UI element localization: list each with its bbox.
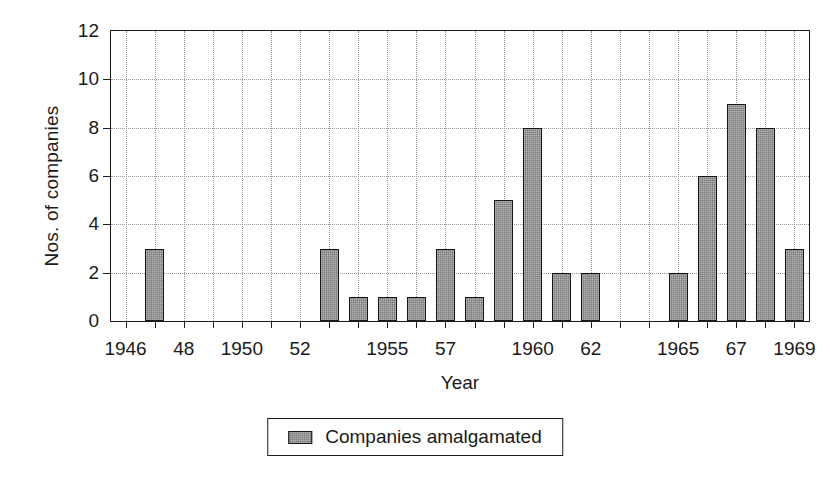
x-tick-label-1946: 1946 xyxy=(104,338,146,360)
x-tick-1966 xyxy=(707,321,708,328)
y-tick-label-12: 12 xyxy=(78,20,99,42)
gridline-x-1963 xyxy=(620,31,621,321)
bar-1958 xyxy=(465,297,484,321)
x-tick-1955 xyxy=(387,321,388,328)
bar-1959 xyxy=(494,200,513,321)
x-tick-label-1957: 57 xyxy=(435,338,456,360)
x-tick-1948 xyxy=(184,321,185,328)
x-tick-1962 xyxy=(591,321,592,328)
y-tick-6 xyxy=(103,176,111,177)
x-tick-1964 xyxy=(649,321,650,328)
gridline-x-1948 xyxy=(184,31,185,321)
y-tick-10 xyxy=(103,79,111,80)
x-tick-label-1952: 52 xyxy=(289,338,310,360)
legend-label-companies-amalgamated: Companies amalgamated xyxy=(325,426,542,448)
x-tick-1952 xyxy=(300,321,301,328)
y-tick-label-8: 8 xyxy=(88,117,99,139)
y-tick-label-0: 0 xyxy=(88,310,99,332)
bar-1953 xyxy=(320,249,339,322)
x-tick-1953 xyxy=(329,321,330,328)
gridline-x-1949 xyxy=(213,31,214,321)
x-tick-1967 xyxy=(736,321,737,328)
gridline-x-1955 xyxy=(387,31,388,321)
x-tick-label-1967: 67 xyxy=(726,338,747,360)
x-tick-1961 xyxy=(562,321,563,328)
x-tick-1947 xyxy=(155,321,156,328)
bar-1947 xyxy=(145,249,164,322)
x-tick-1954 xyxy=(358,321,359,328)
x-tick-1949 xyxy=(213,321,214,328)
x-tick-1951 xyxy=(271,321,272,328)
y-tick-label-6: 6 xyxy=(88,165,99,187)
bar-1968 xyxy=(756,128,775,321)
legend-swatch-companies-amalgamated xyxy=(288,431,312,444)
gridline-y-10 xyxy=(111,79,809,80)
x-tick-1960 xyxy=(533,321,534,328)
y-tick-label-4: 4 xyxy=(88,213,99,235)
bar-1961 xyxy=(552,273,571,321)
x-tick-1950 xyxy=(242,321,243,328)
y-tick-4 xyxy=(103,224,111,225)
y-tick-2 xyxy=(103,273,111,274)
bar-1956 xyxy=(407,297,426,321)
gridline-y-8 xyxy=(111,128,809,129)
gridline-x-1946 xyxy=(126,31,127,321)
y-tick-label-2: 2 xyxy=(88,262,99,284)
x-tick-1963 xyxy=(620,321,621,328)
x-tick-label-1962: 62 xyxy=(580,338,601,360)
gridline-x-1950 xyxy=(242,31,243,321)
gridline-x-1958 xyxy=(475,31,476,321)
x-tick-1965 xyxy=(678,321,679,328)
bar-1965 xyxy=(669,273,688,321)
gridline-x-1952 xyxy=(300,31,301,321)
x-tick-label-1965: 1965 xyxy=(657,338,699,360)
x-tick-label-1960: 1960 xyxy=(512,338,554,360)
bar-1967 xyxy=(727,104,746,322)
x-axis-title: Year xyxy=(110,372,810,394)
bar-1962 xyxy=(581,273,600,321)
bar-1960 xyxy=(523,128,542,321)
y-axis-title: Nos. of companies xyxy=(41,56,63,316)
chart-legend: Companies amalgamated xyxy=(267,418,563,456)
bar-chart-figure: Nos. of companies 024681012 194648195052… xyxy=(0,0,830,492)
x-tick-label-1969: 1969 xyxy=(773,338,815,360)
bar-1955 xyxy=(378,297,397,321)
plot-area: 024681012 194648195052195557196062196567… xyxy=(110,30,810,322)
bar-1966 xyxy=(698,176,717,321)
x-tick-1968 xyxy=(765,321,766,328)
x-tick-1969 xyxy=(794,321,795,328)
bar-1954 xyxy=(349,297,368,321)
x-tick-1959 xyxy=(504,321,505,328)
x-tick-1958 xyxy=(475,321,476,328)
x-tick-label-1948: 48 xyxy=(173,338,194,360)
x-tick-1957 xyxy=(445,321,446,328)
gridline-x-1956 xyxy=(416,31,417,321)
gridline-x-1954 xyxy=(358,31,359,321)
gridline-x-1964 xyxy=(649,31,650,321)
y-tick-8 xyxy=(103,128,111,129)
x-tick-1946 xyxy=(126,321,127,328)
gridline-x-1951 xyxy=(271,31,272,321)
x-tick-label-1950: 1950 xyxy=(221,338,263,360)
bar-1957 xyxy=(436,249,455,322)
y-tick-label-10: 10 xyxy=(78,68,99,90)
x-tick-1956 xyxy=(416,321,417,328)
x-tick-label-1955: 1955 xyxy=(366,338,408,360)
bar-1969 xyxy=(785,249,804,322)
